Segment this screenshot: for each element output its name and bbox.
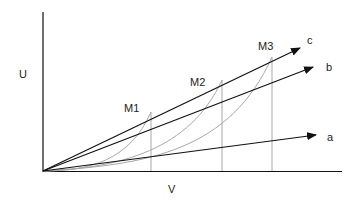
diagram-canvas — [0, 0, 357, 203]
ray-label-b: b — [326, 62, 332, 73]
y-axis-label: U — [19, 69, 27, 80]
point-label-m1: M1 — [124, 103, 139, 114]
ray-c — [43, 48, 300, 171]
x-axis-label: V — [168, 184, 175, 195]
curve-m2 — [43, 80, 222, 171]
point-label-m3: M3 — [258, 41, 273, 52]
point-label-m2: M2 — [190, 77, 205, 88]
ray-a — [43, 135, 316, 171]
ray-label-a: a — [327, 132, 333, 143]
curve-m1 — [43, 112, 151, 171]
ray-label-c: c — [307, 35, 313, 46]
